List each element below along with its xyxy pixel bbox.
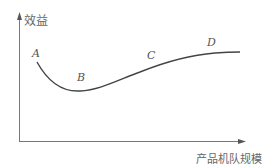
point-label-d: D bbox=[207, 36, 216, 49]
x-axis-label: 产品机队规模 bbox=[196, 150, 262, 166]
point-label-b: B bbox=[77, 71, 85, 84]
x-axis-arrow-icon bbox=[238, 139, 246, 144]
y-axis-arrow-icon bbox=[17, 12, 22, 20]
y-axis-label: 效益 bbox=[24, 11, 48, 28]
y-axis bbox=[17, 12, 22, 141]
point-label-c: C bbox=[147, 49, 155, 62]
benefit-curve bbox=[37, 52, 240, 91]
point-label-a: A bbox=[32, 47, 40, 60]
x-axis bbox=[19, 139, 246, 144]
